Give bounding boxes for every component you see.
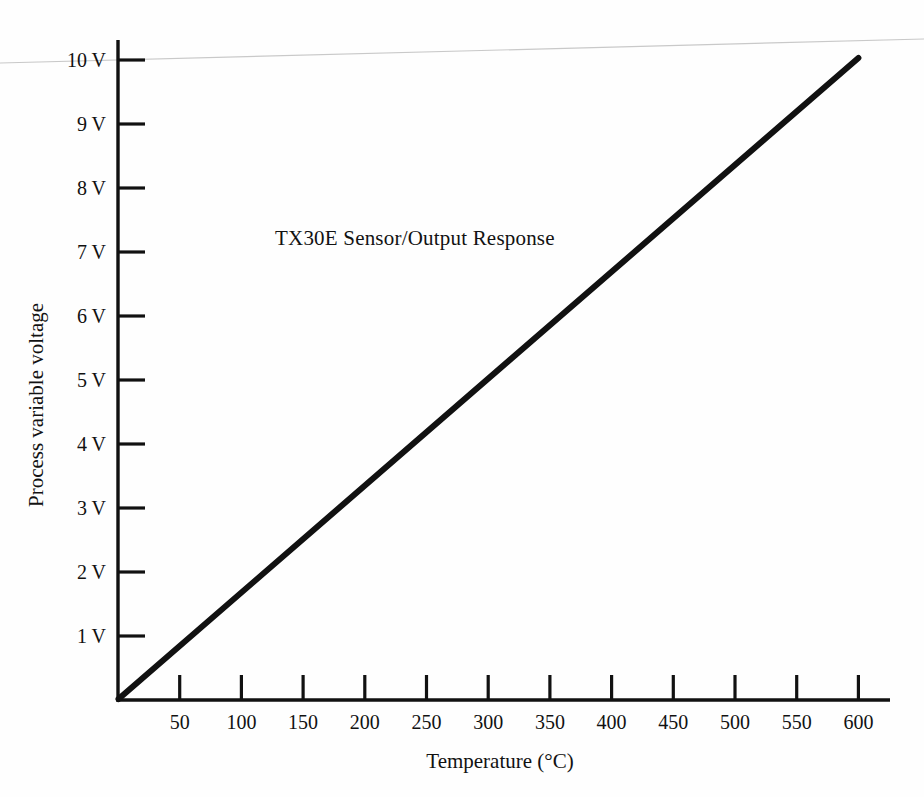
x-tick-label-300: 300 [473,712,503,732]
y-tick-label-9: 9 V [58,114,106,134]
chart-figure: 1 V 2 V 3 V 4 V 5 V 6 V 7 V 8 V 9 V 10 V… [0,0,924,797]
x-tick-label-550: 550 [782,712,812,732]
x-axis-title: Temperature (°C) [426,749,573,774]
y-axis-title: Process variable voltage [24,303,49,507]
x-tick-label-350: 350 [535,712,565,732]
x-tick-label-150: 150 [288,712,318,732]
figure-page: 1 V 2 V 3 V 4 V 5 V 6 V 7 V 8 V 9 V 10 V… [0,0,924,797]
x-tick-label-600: 600 [843,712,873,732]
x-tick-label-500: 500 [720,712,750,732]
y-tick-label-2: 2 V [58,562,106,582]
y-tick-label-7: 7 V [58,242,106,262]
y-tick-label-3: 3 V [58,498,106,518]
chart-plot-area [0,0,924,797]
y-tick-label-4: 4 V [58,434,106,454]
data-line-sensor-response [119,58,859,699]
x-tick-label-400: 400 [597,712,627,732]
x-tick-label-100: 100 [226,712,256,732]
chart-title: TX30E Sensor/Output Response [275,226,555,251]
y-tick-label-5: 5 V [58,370,106,390]
x-tick-label-250: 250 [412,712,442,732]
y-tick-label-8: 8 V [58,178,106,198]
x-tick-label-450: 450 [658,712,688,732]
x-tick-label-50: 50 [170,712,190,732]
y-axis-ticks [119,60,145,636]
y-tick-label-6: 6 V [58,306,106,326]
y-tick-label-10: 10 V [50,50,106,70]
x-axis-ticks [180,675,859,699]
x-tick-label-200: 200 [350,712,380,732]
y-tick-label-1: 1 V [58,626,106,646]
